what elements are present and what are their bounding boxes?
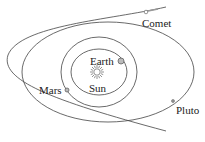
earth-icon [118, 58, 124, 64]
pluto-icon [172, 100, 175, 103]
label-sun: Sun [89, 82, 107, 94]
label-earth: Earth [90, 55, 114, 67]
pluto-orbit [22, 22, 194, 122]
comet-icon [144, 9, 158, 14]
label-mars: Mars [39, 84, 62, 96]
label-pluto: Pluto [176, 104, 200, 116]
solar-system-diagram: Earth Sun Mars Pluto Comet [0, 0, 205, 142]
label-comet: Comet [142, 17, 171, 29]
mars-icon [65, 88, 69, 92]
sun-icon [90, 65, 104, 79]
